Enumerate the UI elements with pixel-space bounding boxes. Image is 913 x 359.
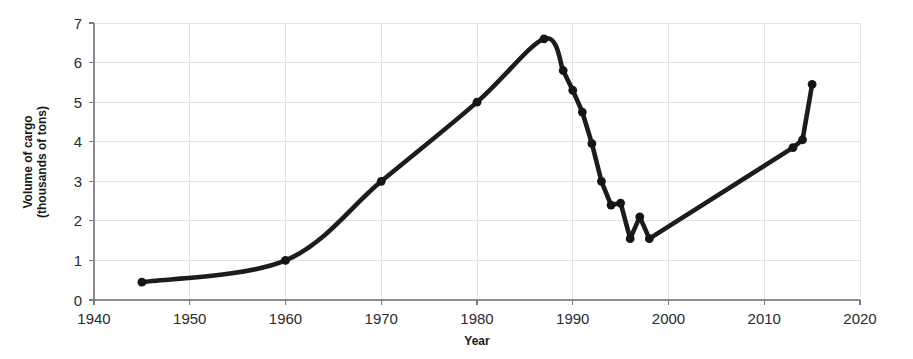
data-point-1945 [137, 278, 146, 287]
y-tick-label-2: 2 [74, 212, 82, 229]
x-tick-label-1980: 1980 [460, 310, 493, 327]
x-tick-label-2020: 2020 [843, 310, 876, 327]
cargo-volume-line-chart: 01234567 1940195019601970198019902000201… [0, 0, 913, 359]
y-tick-label-6: 6 [74, 54, 82, 71]
y-tick-label-5: 5 [74, 94, 82, 111]
y-axis-title-line2: (thousands of tons) [35, 106, 49, 218]
data-point-1994 [607, 201, 616, 210]
x-axis-title: Year [464, 334, 490, 348]
data-point-1991 [578, 108, 587, 117]
vertical-gridlines [94, 23, 860, 300]
data-point-1987 [540, 34, 549, 43]
data-point-1970 [377, 177, 386, 186]
y-tick-label-1: 1 [74, 252, 82, 269]
data-point-1980 [473, 98, 482, 107]
tick-marks [89, 23, 860, 305]
data-point-1989 [559, 66, 568, 75]
data-point-1993 [597, 177, 606, 186]
y-axis-tick-labels: 01234567 [74, 15, 82, 309]
x-tick-label-1940: 1940 [77, 310, 110, 327]
y-axis-title-line1: Volume of cargo [21, 115, 35, 208]
y-tick-label-3: 3 [74, 173, 82, 190]
y-tick-label-0: 0 [74, 292, 82, 309]
data-point-1995 [616, 199, 625, 208]
x-tick-label-1990: 1990 [556, 310, 589, 327]
data-point-2015 [808, 80, 817, 89]
data-point-2014 [798, 135, 807, 144]
data-point-2013 [789, 143, 798, 152]
x-tick-label-2010: 2010 [748, 310, 781, 327]
data-point-1960 [281, 256, 290, 265]
data-point-1998 [645, 234, 654, 243]
y-tick-label-4: 4 [74, 133, 82, 150]
x-tick-label-1970: 1970 [365, 310, 398, 327]
chart-container: 01234567 1940195019601970198019902000201… [0, 0, 913, 359]
y-tick-label-7: 7 [74, 15, 82, 32]
x-tick-label-2000: 2000 [652, 310, 685, 327]
data-point-1990 [568, 86, 577, 95]
x-tick-label-1950: 1950 [173, 310, 206, 327]
data-point-1992 [588, 139, 597, 148]
x-axis-tick-labels: 194019501960197019801990200020102020 [77, 310, 876, 327]
data-point-1997 [635, 213, 644, 222]
data-point-1996 [626, 234, 635, 243]
x-tick-label-1960: 1960 [269, 310, 302, 327]
